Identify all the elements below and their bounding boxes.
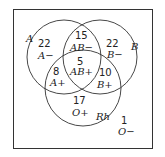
region-b-plus-label: B+: [96, 79, 113, 90]
region-b-minus-count: 22: [106, 38, 119, 49]
region-ab-minus-count: 15: [75, 30, 88, 41]
set-label-rh: Rh: [95, 111, 110, 122]
set-label-b: B: [130, 41, 138, 52]
set-label-a: A: [25, 33, 33, 44]
venn-diagram: A B Rh 22 A− 15 AB− 22 B− 5 AB+ 8 A+ 10 …: [0, 0, 165, 157]
region-b-minus-label: B−: [106, 49, 123, 60]
region-o-minus-count: 1: [121, 115, 127, 126]
region-a-plus-label: A+: [49, 77, 66, 88]
region-ab-minus-label: AB−: [69, 42, 93, 53]
region-ab-plus-label: AB+: [69, 66, 93, 77]
region-o-plus-count: 17: [73, 95, 86, 106]
region-o-plus-label: O+: [72, 107, 89, 118]
region-a-minus-label: A−: [37, 50, 54, 61]
region-o-minus-label: O−: [118, 126, 135, 137]
region-b-plus-count: 10: [99, 67, 112, 78]
region-a-plus-count: 8: [53, 66, 59, 77]
region-a-minus-count: 22: [38, 38, 51, 49]
